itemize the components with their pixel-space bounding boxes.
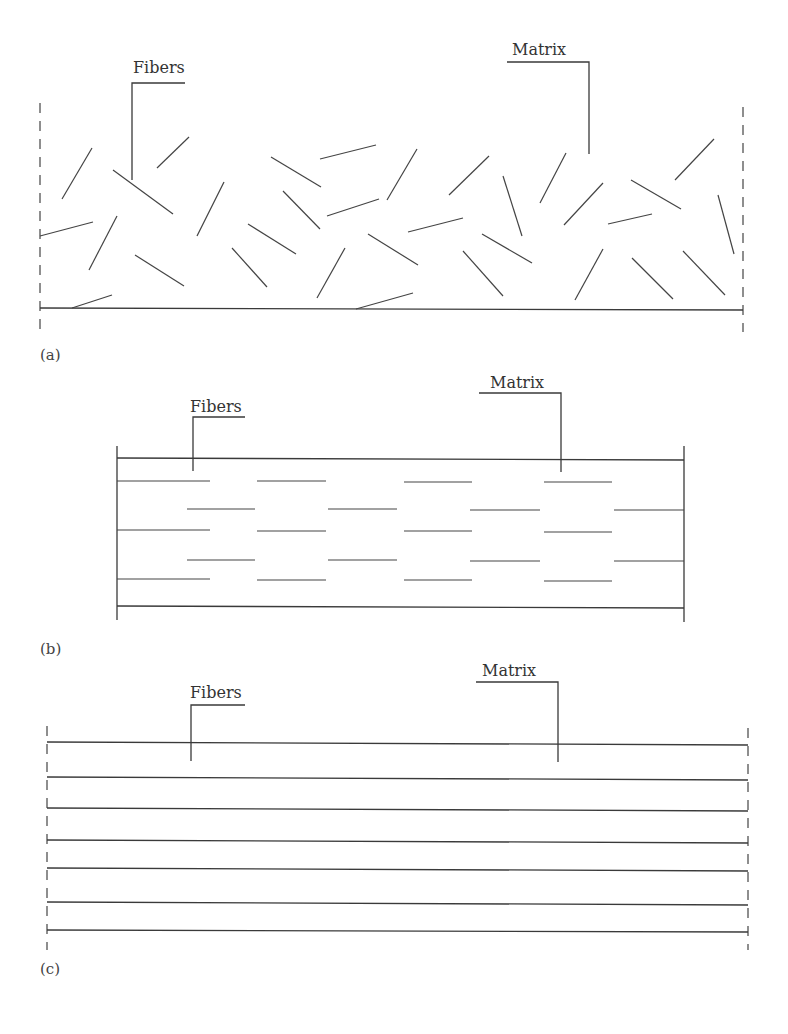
random-fibers	[40, 137, 734, 309]
panel-a-fibers-leader	[132, 83, 185, 180]
panel-b-bottom-line	[117, 606, 684, 608]
panel-b-fibers-leader	[193, 417, 245, 471]
panel-a-matrix-label: Matrix	[512, 40, 566, 59]
panel-c-fibers-label: Fibers	[190, 683, 242, 702]
panel-a-caption: (a)	[40, 346, 61, 364]
panel-c-matrix-leader	[476, 682, 558, 762]
panel-b-top-line	[117, 458, 684, 460]
aligned-short-fibers	[117, 481, 684, 581]
panel-b-fibers-label: Fibers	[190, 397, 242, 416]
panel-a-fibers-label: Fibers	[133, 58, 185, 77]
panel-c: Fibers Matrix (c)	[40, 661, 748, 978]
panel-c-caption: (c)	[40, 960, 60, 978]
panel-b-matrix-label: Matrix	[490, 373, 544, 392]
panel-a: Fibers Matrix (a)	[40, 40, 743, 364]
panel-c-matrix-label: Matrix	[482, 661, 536, 680]
panel-a-base-line	[40, 308, 743, 310]
panel-b: Fibers Matrix (b)	[40, 373, 684, 658]
composite-figure: Fibers Matrix (a)	[0, 0, 788, 1034]
panel-c-fibers-leader	[191, 705, 245, 761]
panel-b-caption: (b)	[40, 640, 61, 658]
continuous-fibers	[47, 742, 748, 932]
panel-a-matrix-leader	[507, 62, 589, 154]
